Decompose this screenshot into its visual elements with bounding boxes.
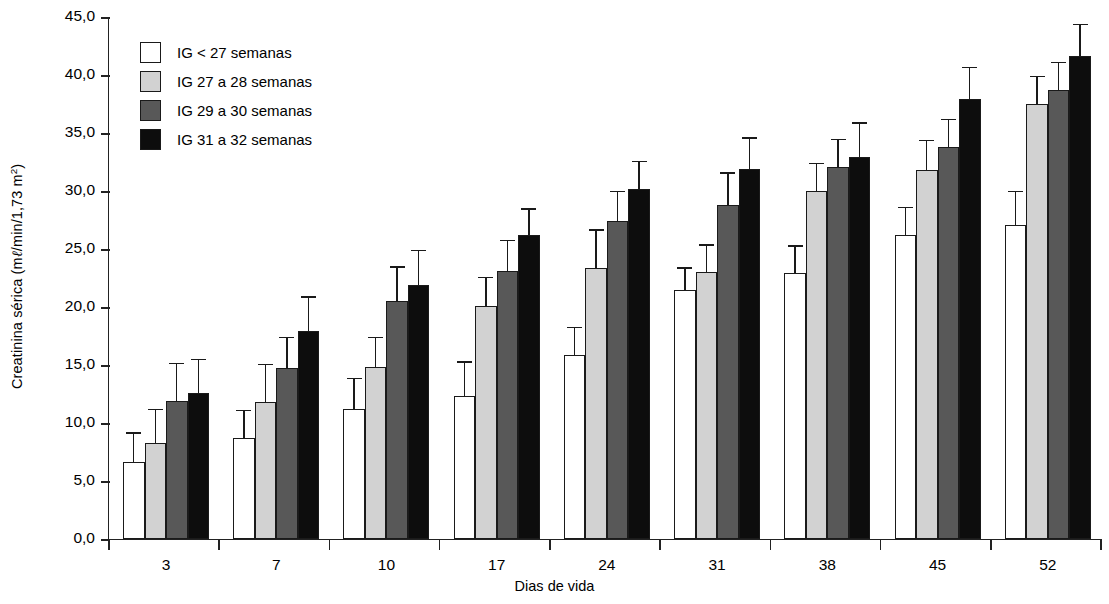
- bar: [628, 189, 650, 539]
- bar: [1069, 56, 1091, 539]
- x-tick-mark: [659, 539, 661, 550]
- y-tick-label: 15,0: [65, 355, 95, 373]
- error-bar: [265, 364, 266, 403]
- y-tick-mark: [101, 133, 110, 135]
- bar: [806, 191, 828, 539]
- error-bar: [1058, 62, 1059, 91]
- legend-label: IG < 27 semanas: [177, 44, 292, 61]
- error-bar-cap: [1051, 62, 1066, 63]
- error-bar: [859, 122, 860, 158]
- bar: [123, 462, 145, 539]
- error-bar-cap: [809, 163, 824, 164]
- error-bar-cap: [411, 250, 426, 251]
- bar: [895, 235, 917, 539]
- y-tick-mark: [101, 191, 110, 193]
- error-bar-cap: [632, 161, 647, 162]
- bar: [166, 401, 188, 539]
- x-tick-label: 52: [1008, 556, 1088, 574]
- x-tick-label: 3: [126, 556, 206, 574]
- bar: [1026, 104, 1048, 539]
- legend-item: IG < 27 semanas: [140, 38, 312, 67]
- error-bar-cap: [521, 208, 536, 209]
- x-tick-mark: [990, 539, 992, 550]
- error-bar: [528, 208, 529, 236]
- error-bar-cap: [1073, 24, 1088, 25]
- error-bar: [727, 172, 728, 206]
- x-tick-mark: [108, 539, 110, 550]
- error-bar-cap: [126, 432, 141, 433]
- error-bar-cap: [457, 361, 472, 362]
- x-axis-title: Dias de vida: [0, 578, 1109, 594]
- error-bar: [464, 361, 465, 397]
- error-bar-cap: [301, 296, 316, 297]
- y-tick-mark: [101, 17, 110, 19]
- error-bar: [353, 378, 354, 410]
- x-tick-mark: [880, 539, 882, 550]
- error-bar: [396, 266, 397, 302]
- x-tick-label: 17: [457, 556, 537, 574]
- error-bar: [638, 161, 639, 190]
- error-bar-cap: [699, 244, 714, 245]
- x-tick-mark: [1100, 539, 1102, 550]
- bar: [276, 368, 298, 539]
- bar: [959, 99, 981, 539]
- y-tick-label: 25,0: [65, 239, 95, 257]
- x-tick-mark: [218, 539, 220, 550]
- bar: [497, 271, 519, 539]
- x-tick-label: 10: [346, 556, 426, 574]
- error-bar-cap: [191, 359, 206, 360]
- y-tick-label: 5,0: [73, 471, 95, 489]
- y-tick-mark: [101, 423, 110, 425]
- error-bar-cap: [898, 207, 913, 208]
- bar: [454, 396, 476, 539]
- error-bar-cap: [852, 122, 867, 123]
- error-bar: [905, 207, 906, 236]
- legend-item: IG 29 a 30 semanas: [140, 96, 312, 125]
- bar: [564, 355, 586, 539]
- bar: [386, 301, 408, 539]
- error-bar-cap: [720, 172, 735, 173]
- error-bar-cap: [169, 363, 184, 364]
- bar: [365, 367, 387, 539]
- y-axis-title: Creatinina sérica (mℓ/min/1,73 m2): [8, 16, 27, 536]
- error-bar: [133, 432, 134, 463]
- error-bar-cap: [347, 378, 362, 379]
- bar: [607, 221, 629, 539]
- error-bar: [1036, 76, 1037, 105]
- error-bar: [485, 277, 486, 307]
- error-bar: [684, 267, 685, 290]
- error-bar-cap: [279, 337, 294, 338]
- y-tick-label: 45,0: [65, 7, 95, 25]
- error-bar-cap: [478, 277, 493, 278]
- bar: [255, 402, 277, 539]
- bar: [849, 157, 871, 539]
- legend-item: IG 27 a 28 semanas: [140, 67, 312, 96]
- bar: [717, 205, 739, 539]
- error-bar-cap: [831, 139, 846, 140]
- error-bar-cap: [148, 409, 163, 410]
- error-bar-cap: [742, 137, 757, 138]
- y-tick-label: 20,0: [65, 297, 95, 315]
- x-tick-label: 7: [236, 556, 316, 574]
- error-bar: [1015, 191, 1016, 226]
- legend-swatch: [140, 100, 161, 121]
- y-tick-mark: [101, 307, 110, 309]
- error-bar-cap: [236, 410, 251, 411]
- error-bar: [198, 359, 199, 394]
- x-tick-mark: [770, 539, 772, 550]
- error-bar: [617, 191, 618, 222]
- error-bar: [155, 409, 156, 444]
- error-bar: [1079, 24, 1080, 58]
- error-bar-cap: [919, 140, 934, 141]
- y-tick-mark: [101, 365, 110, 367]
- bar: [408, 285, 430, 539]
- error-bar: [176, 363, 177, 402]
- error-bar: [816, 163, 817, 192]
- bar: [674, 290, 696, 539]
- error-bar: [706, 244, 707, 273]
- bar: [827, 167, 849, 539]
- chart-legend: IG < 27 semanasIG 27 a 28 semanasIG 29 a…: [140, 38, 312, 154]
- legend-label: IG 31 a 32 semanas: [177, 131, 312, 148]
- legend-swatch: [140, 71, 161, 92]
- error-bar-cap: [258, 364, 273, 365]
